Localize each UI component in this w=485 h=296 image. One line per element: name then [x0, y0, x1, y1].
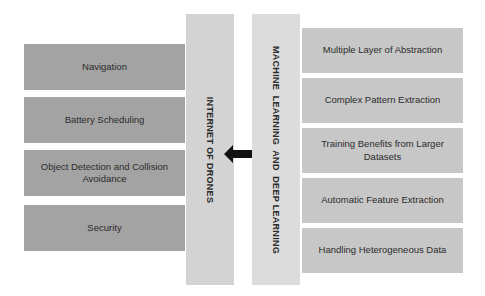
- node-object-detection: Object Detection and Collision Avoidance: [24, 150, 185, 196]
- node-label: Training Benefits from Larger Datasets: [310, 138, 455, 163]
- node-label: Navigation: [82, 61, 127, 73]
- node-label: Object Detection and Collision Avoidance: [32, 161, 177, 186]
- node-heterogeneous-data: Handling Heterogeneous Data: [302, 228, 463, 273]
- node-complex-pattern: Complex Pattern Extraction: [302, 78, 463, 123]
- pillar-machine-learning: MACHINE LEARNING AND DEEP LEARNING: [252, 14, 300, 285]
- pillar-label: INTERNET OF DRONES: [205, 96, 215, 202]
- node-label: Complex Pattern Extraction: [325, 94, 441, 106]
- node-label: Security: [87, 222, 121, 234]
- node-battery-scheduling: Battery Scheduling: [24, 97, 185, 143]
- node-automatic-feature: Automatic Feature Extraction: [302, 178, 463, 223]
- pillar-label: MACHINE LEARNING AND DEEP LEARNING: [271, 45, 281, 253]
- node-label: Handling Heterogeneous Data: [319, 244, 447, 256]
- node-label: Automatic Feature Extraction: [321, 194, 444, 206]
- node-navigation: Navigation: [24, 44, 185, 90]
- node-label: Multiple Layer of Abstraction: [323, 44, 442, 56]
- node-security: Security: [24, 205, 185, 251]
- node-label: Battery Scheduling: [65, 114, 145, 126]
- node-multiple-layer: Multiple Layer of Abstraction: [302, 28, 463, 73]
- node-training-benefits: Training Benefits from Larger Datasets: [302, 128, 463, 173]
